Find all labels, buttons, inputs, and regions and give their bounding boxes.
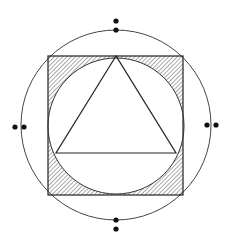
dot-right: [213, 122, 218, 127]
dot-right: [204, 122, 209, 127]
dot-top: [113, 27, 118, 32]
dot-bottom: [113, 226, 118, 231]
dot-top: [113, 18, 118, 23]
dot-left: [12, 124, 17, 129]
dot-left: [21, 124, 26, 129]
dot-bottom: [113, 217, 118, 222]
geometric-diagram: [0, 0, 230, 244]
